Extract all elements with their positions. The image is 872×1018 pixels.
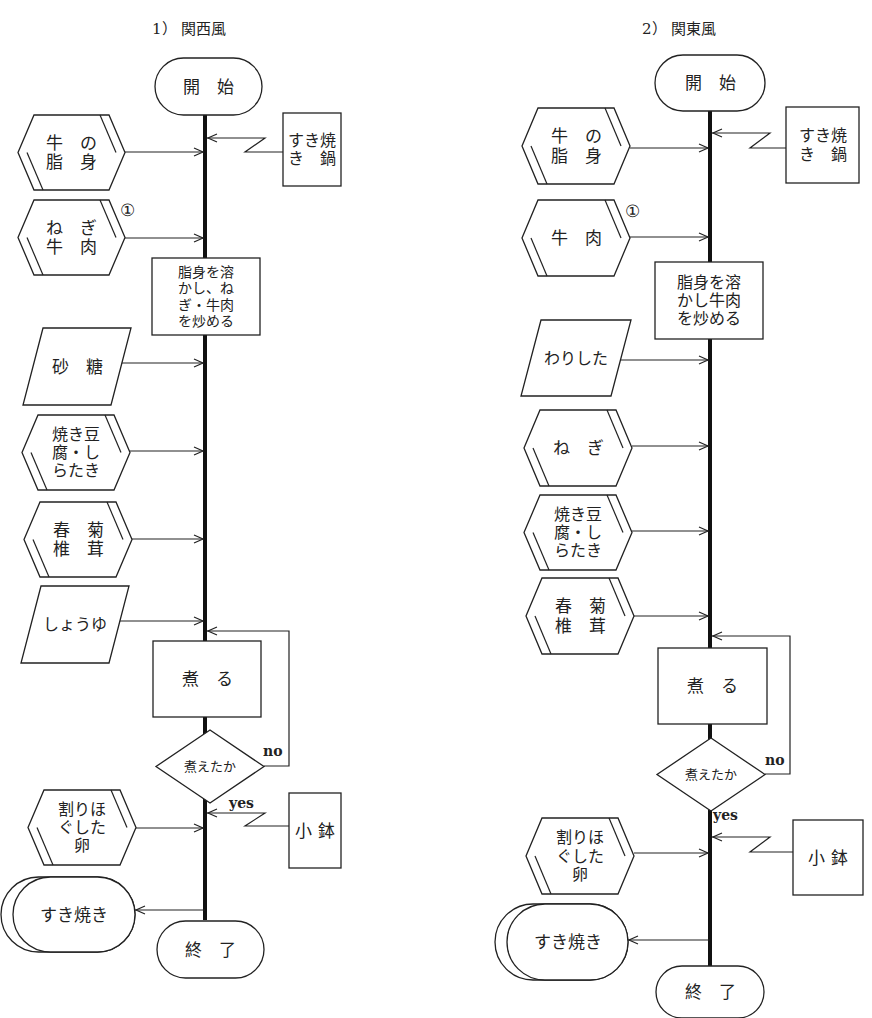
node-label: ね ぎ (46, 218, 97, 238)
node-label: 脂身を溶 (178, 264, 234, 280)
input-tofu-shirataki: 焼き豆腐・しらたき (22, 415, 203, 490)
input-shungiku-shiitake: 春 菊椎 茸 (526, 578, 708, 654)
node-label: 焼き豆 (52, 425, 100, 444)
node-label: 春 菊 (555, 596, 606, 616)
node-label: 煮えたか (685, 767, 737, 782)
node-label: き 鍋 (288, 149, 336, 168)
node-label: 春 菊 (53, 520, 104, 540)
node-label: 終 了 (685, 982, 736, 1002)
input-sukiyaki-pan: すき焼き 鍋 (712, 107, 859, 183)
chart-title-kansai: 1） 関西風 (152, 17, 226, 38)
lightning-link (712, 837, 793, 852)
node-label: 脂 身 (551, 146, 602, 166)
node-label: 煮えたか (184, 759, 236, 774)
node-label: を炒める (178, 313, 234, 329)
node-label: 砂 糖 (52, 357, 103, 377)
node-label: 牛 肉 (46, 237, 97, 257)
node-label: ぐした (556, 847, 604, 866)
node-label: ぎ・牛肉 (178, 297, 234, 313)
step-marker: ① (625, 201, 640, 221)
input-negi: ね ぎ (524, 410, 708, 486)
flowchart-canvas: 1） 関西風 2） 関東風 開 始牛 の脂 身すき焼き 鍋ね ぎ牛 肉①脂身を溶… (0, 0, 872, 1018)
node-label: 焼き豆 (554, 505, 602, 524)
node-label: らたき (52, 461, 100, 480)
node-label: 卵 (572, 865, 588, 884)
node-label: 腐・し (52, 443, 100, 462)
node-label: 煮 る (687, 676, 738, 696)
decision-cooked: 煮えたか (156, 730, 264, 803)
node-label: 脂 身 (46, 152, 97, 172)
input-beef-fat: 牛 の脂 身 (18, 115, 203, 190)
lightning-link (207, 138, 283, 152)
node-label: わりした (544, 349, 608, 368)
node-label: 割りほ (58, 800, 106, 819)
node-label: 開 始 (183, 77, 234, 97)
node-label: かし、ね (178, 280, 234, 296)
input-beaten-egg: 割りほぐした卵 (526, 818, 708, 894)
node-label: 脂身を溶 (677, 273, 741, 292)
node-label: 終 了 (185, 940, 236, 960)
node-label: 椎 茸 (53, 539, 104, 559)
step-marker: ① (120, 200, 135, 220)
flowchart-kansai: 開 始牛 の脂 身すき焼き 鍋ね ぎ牛 肉①脂身を溶かし、ねぎ・牛肉を炒める砂 … (1, 58, 341, 978)
node-label: 腐・し (554, 523, 602, 542)
node-label: 牛 の (46, 133, 97, 153)
node-label: 小 鉢 (295, 821, 334, 841)
process-melt-fry: 脂身を溶かし牛肉を炒める (655, 262, 763, 339)
node-label: 卵 (74, 836, 90, 855)
node-label: 開 始 (685, 73, 736, 93)
input-tofu-shirataki: 焼き豆腐・しらたき (524, 495, 708, 570)
node-label: かし牛肉 (677, 291, 741, 310)
node-label: 椎 茸 (555, 616, 606, 636)
node-label: 割りほ (556, 828, 604, 847)
node-label: ね ぎ (553, 438, 604, 458)
node-label: すき焼 (288, 131, 336, 150)
yes-label: yes (228, 795, 254, 811)
node-label: らたき (554, 541, 602, 560)
input-beef-fat: 牛 の脂 身 (522, 108, 708, 184)
process-melt-fry: 脂身を溶かし、ねぎ・牛肉を炒める (152, 258, 260, 335)
input-small-bowl: 小 鉢 (712, 820, 863, 895)
flowcharts-svg: 開 始牛 の脂 身すき焼き 鍋ね ぎ牛 肉①脂身を溶かし、ねぎ・牛肉を炒める砂 … (0, 0, 872, 1018)
yes-label: yes (712, 807, 738, 823)
node-label: すき焼 (799, 126, 847, 145)
node-label: 牛 の (551, 126, 602, 146)
end-terminal: 終 了 (656, 966, 764, 1018)
lightning-link (207, 813, 289, 826)
end-terminal: 終 了 (157, 921, 264, 978)
no-label: no (765, 752, 785, 768)
node-label: 煮 る (182, 669, 233, 689)
node-label: を炒める (677, 309, 741, 328)
input-sukiyaki-pan: すき焼き 鍋 (207, 113, 341, 186)
flowchart-kanto: 開 始牛 の脂 身すき焼き 鍋牛 肉①脂身を溶かし牛肉を炒めるわりしたね ぎ焼き… (495, 55, 863, 1018)
input-shungiku-shiitake: 春 菊椎 茸 (24, 502, 203, 577)
process-simmer: 煮 る (658, 648, 767, 724)
input-small-bowl: 小 鉢 (207, 793, 341, 868)
input-beaten-egg: 割りほぐした卵 (28, 790, 203, 865)
node-label: 小 鉢 (808, 848, 847, 868)
chart-title-kanto: 2） 関東風 (642, 17, 716, 38)
no-label: no (263, 743, 283, 759)
input-sugar: 砂 糖 (23, 328, 203, 405)
node-label: すき焼き (40, 905, 108, 925)
start-terminal: 開 始 (155, 58, 262, 115)
decision-cooked: 煮えたか (657, 738, 765, 811)
start-terminal: 開 始 (655, 55, 765, 111)
node-label: ぐした (58, 818, 106, 837)
lightning-link (712, 133, 786, 148)
node-label: 牛 肉 (551, 228, 602, 248)
node-label: き 鍋 (799, 145, 847, 164)
process-simmer: 煮 る (153, 641, 261, 717)
node-label: しょうゆ (43, 615, 107, 634)
node-label: すき焼き (534, 932, 602, 952)
